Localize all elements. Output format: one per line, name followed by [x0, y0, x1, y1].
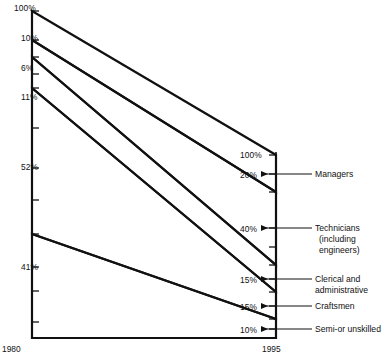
callout-technicians-line3: engineers): [319, 245, 360, 255]
right-pct-technicians: 40%: [240, 224, 258, 234]
left-total-label: 100%: [14, 3, 36, 13]
callout-technicians-line1: Technicians: [315, 223, 360, 233]
callout-managers: Managers: [315, 169, 353, 179]
right-total-label: 100%: [240, 150, 262, 160]
left-pct-unskilled: 41%: [21, 262, 39, 272]
right-pct-craftsmen: 15%: [240, 302, 258, 312]
callout-clerical-line2: administrative: [315, 285, 368, 295]
band-area-unskilled: [32, 234, 276, 338]
callout-unskilled: Semi-or unskilled: [315, 324, 381, 334]
band-area-managers: [32, 11, 276, 192]
right-pct-unskilled: 10%: [240, 325, 258, 335]
left-pct-managers: 10%: [21, 33, 39, 43]
right-pct-managers: 20%: [240, 170, 258, 180]
leader-lines: [263, 174, 312, 329]
x-axis-label-1980: 1980: [2, 344, 21, 354]
callout-technicians-line2: (including: [319, 234, 356, 244]
callout-craftsmen: Craftsmen: [315, 301, 355, 311]
right-pct-arrows: [261, 171, 268, 332]
left-pct-craftsmen: 52%: [21, 162, 39, 172]
left-pct-clerical: 11%: [21, 92, 38, 102]
left-pct-technicians: 6%: [21, 63, 34, 73]
x-axis-label-1995: 1995: [262, 344, 281, 354]
occupational-structure-chart: 100% 10% 6% 11% 52% 41% 100% 20% 40% 15%…: [0, 0, 390, 360]
callout-clerical-line1: Clerical and: [315, 274, 361, 284]
chart-svg: 100% 10% 6% 11% 52% 41% 100% 20% 40% 15%…: [0, 0, 390, 360]
right-pct-clerical: 15%: [240, 275, 258, 285]
